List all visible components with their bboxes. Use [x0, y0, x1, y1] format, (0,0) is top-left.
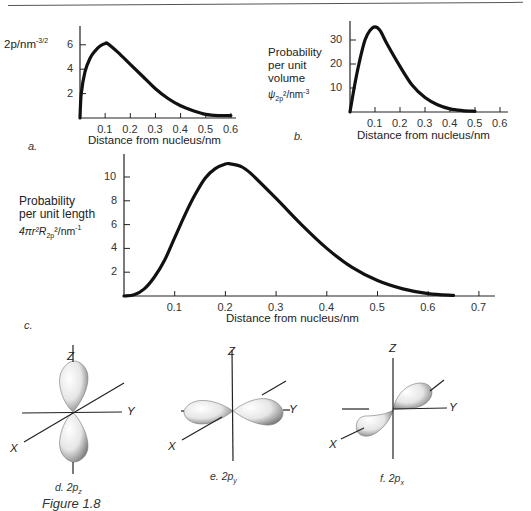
- orbital-e-label: e. 2py: [210, 470, 237, 484]
- z-axis: [232, 350, 233, 461]
- lobe-left: [184, 400, 233, 424]
- figure-caption: Figure 1.8: [42, 496, 101, 511]
- orbital-d-y-label: Y: [127, 405, 135, 417]
- orbital-e-x-label: X: [168, 440, 176, 452]
- orbital-2py: [181, 350, 290, 461]
- y-axis: [22, 412, 122, 413]
- orbital-d-x-label: X: [10, 442, 18, 454]
- orbital-e-z-label: Z: [228, 345, 235, 357]
- orbital-f-z-label: Z: [389, 342, 396, 354]
- orbital-f-label: f. 2px: [380, 472, 404, 486]
- orbital-d-label: d. 2pz: [55, 481, 82, 495]
- lobe-upper-right: [393, 383, 432, 409]
- lobe-lower: [60, 412, 88, 462]
- orbital-d-z-label: Z: [67, 350, 74, 362]
- lobe-lower-left: [356, 410, 393, 436]
- orbital-f-x-label: X: [329, 438, 337, 450]
- orbital-e-y-label: Y: [289, 403, 297, 415]
- lobe-upper: [60, 361, 88, 412]
- lobe-right: [233, 399, 283, 426]
- orbital-2px: [341, 358, 447, 459]
- orbital-f-y-label: Y: [449, 401, 457, 413]
- orbital-2pz: [22, 345, 124, 474]
